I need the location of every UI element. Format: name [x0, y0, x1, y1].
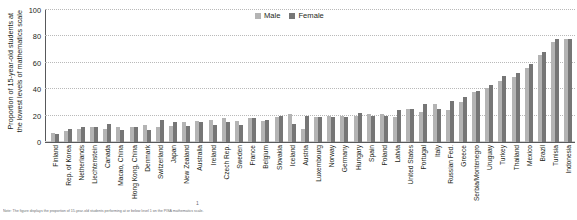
bar-female: [226, 122, 230, 142]
bar-group: [180, 10, 193, 142]
bar-female: [265, 120, 269, 142]
x-tick-label: Denmark: [143, 145, 150, 172]
x-tick: Australia: [193, 144, 206, 204]
x-tick: United States: [404, 144, 417, 204]
y-tick-label-20: 20: [17, 112, 41, 121]
x-tick: Spain: [364, 144, 377, 204]
x-tick-label: Hungary: [354, 145, 361, 170]
x-tick-label: Ireland: [209, 145, 216, 165]
x-axis-line: [45, 142, 575, 143]
x-tick-label: Poland: [380, 145, 387, 166]
bar-group: [377, 10, 390, 142]
bar-group: [364, 10, 377, 142]
bar-female: [94, 127, 98, 142]
x-tick-label: Thailand: [512, 145, 519, 170]
bar-group: [562, 10, 575, 142]
x-tick-label: Luxembourg: [315, 145, 322, 182]
x-tick-label: Slovakia: [275, 145, 282, 170]
bar-group: [193, 10, 206, 142]
x-tick: Canada: [101, 144, 114, 204]
bar-female: [476, 91, 480, 142]
x-tick: Brazil: [535, 144, 548, 204]
bar-group: [338, 10, 351, 142]
chart-container: Proportion of 15-year-old students at th…: [0, 0, 577, 220]
x-tick: Norway: [325, 144, 338, 204]
bar-female: [292, 124, 296, 142]
x-tick: Liechtenstein: [88, 144, 101, 204]
bar-group: [246, 10, 259, 142]
x-tick: Belgium: [259, 144, 272, 204]
bar-female: [186, 126, 190, 142]
bar-group: [48, 10, 61, 142]
x-tick-label: Mexico: [525, 145, 532, 166]
x-tick-label: Sweden: [235, 145, 242, 169]
bar-female: [55, 134, 59, 142]
x-tick-label: Russian Fed.: [446, 145, 453, 184]
x-tick: Slovakia: [272, 144, 285, 204]
x-tick: Turkey: [496, 144, 509, 204]
x-tick-label: Austria: [301, 145, 308, 166]
x-tick-label: Spain: [367, 145, 374, 162]
x-tick-label: Norway: [328, 145, 335, 167]
bar-group: [509, 10, 522, 142]
x-tick: Poland: [377, 144, 390, 204]
y-axis-title-line-1: Proportion of 15-year-old students at: [6, 0, 15, 144]
x-tick: Italy: [430, 144, 443, 204]
bar-group: [443, 10, 456, 142]
footnote-text: Note: The figure displays the proportion…: [3, 209, 563, 214]
bar-female: [331, 117, 335, 142]
bar-female: [516, 73, 520, 142]
bar-group: [74, 10, 87, 142]
bar-group: [456, 10, 469, 142]
x-tick: Netherlands: [74, 144, 87, 204]
x-tick-label: Rep. of Korea: [64, 145, 71, 186]
bar-group: [61, 10, 74, 142]
bar-group: [535, 10, 548, 142]
bar-group: [311, 10, 324, 142]
x-tick-label: Czech Rep.: [222, 145, 229, 179]
bar-female: [344, 117, 348, 142]
x-tick: Czech Rep.: [219, 144, 232, 204]
bar-female: [371, 116, 375, 142]
x-tick-label: Latvia: [394, 145, 401, 163]
x-tick-label: Iceland: [288, 145, 295, 166]
x-tick-label: Uruguay: [486, 145, 493, 170]
bar-group: [430, 10, 443, 142]
x-tick: Austria: [298, 144, 311, 204]
bar-female: [529, 64, 533, 142]
bar-female: [450, 101, 454, 142]
bar-female: [555, 39, 559, 142]
x-tick-label: Serbia/Montenegro: [473, 145, 480, 201]
y-tick-label-0: 0: [17, 138, 41, 147]
x-tick-label: United States: [407, 145, 414, 185]
bar-female: [502, 76, 506, 142]
bar-group: [549, 10, 562, 142]
bar-group: [127, 10, 140, 142]
bar-group: [496, 10, 509, 142]
bar-group: [417, 10, 430, 142]
footnote-marker: 1: [196, 200, 199, 206]
bar-group: [522, 10, 535, 142]
bar-female: [358, 113, 362, 142]
bar-female: [120, 130, 124, 142]
x-tick-label: Belgium: [262, 145, 269, 169]
bar-female: [437, 109, 441, 142]
x-tick-label: Tunisia: [552, 145, 559, 166]
x-tick-label: Germany: [341, 145, 348, 172]
bar-group: [232, 10, 245, 142]
bar-group: [101, 10, 114, 142]
x-tick: Sweden: [232, 144, 245, 204]
x-tick: Indonesia: [562, 144, 575, 204]
bar-female: [107, 124, 111, 142]
bar-group: [390, 10, 403, 142]
x-tick: Latvia: [390, 144, 403, 204]
bar-female: [542, 52, 546, 142]
y-axis-title: Proportion of 15-year-old students at th…: [6, 0, 24, 144]
x-tick-label: Switzerland: [156, 145, 163, 179]
x-tick-label: Brazil: [538, 145, 545, 162]
y-tick-label-80: 80: [17, 32, 41, 41]
x-tick-label: Portugal: [420, 145, 427, 170]
bar-group: [206, 10, 219, 142]
bar-female: [173, 122, 177, 142]
bar-group: [114, 10, 127, 142]
